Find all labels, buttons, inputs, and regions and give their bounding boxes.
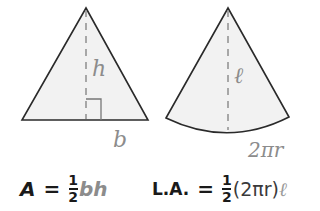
one-half-fraction: 1 2 (222, 174, 232, 204)
sector: ℓ 2πr (166, 8, 289, 162)
equals-sign: = (197, 177, 214, 201)
height-label: h (92, 56, 106, 81)
slant-height-label: ℓ (234, 63, 244, 88)
lateral-area-symbol: L.A. (152, 179, 189, 199)
base-label: b (113, 127, 127, 152)
lateral-area-formula: L.A. = 1 2 (2πr) ℓ (152, 174, 287, 204)
numerator: 1 (222, 174, 232, 187)
circumference-term: (2πr) (233, 178, 279, 200)
arc-length-label: 2πr (247, 138, 285, 162)
area-symbol: A (20, 177, 35, 201)
base-height-product: bh (79, 177, 108, 201)
area-formula: A = 1 2 bh (20, 174, 108, 204)
denominator: 2 (68, 191, 78, 204)
one-half-fraction: 1 2 (68, 174, 78, 204)
slant-height-term: ℓ (279, 178, 287, 201)
triangle: h b (22, 8, 148, 152)
numerator: 1 (68, 174, 78, 187)
equals-sign: = (43, 177, 60, 201)
denominator: 2 (222, 191, 232, 204)
